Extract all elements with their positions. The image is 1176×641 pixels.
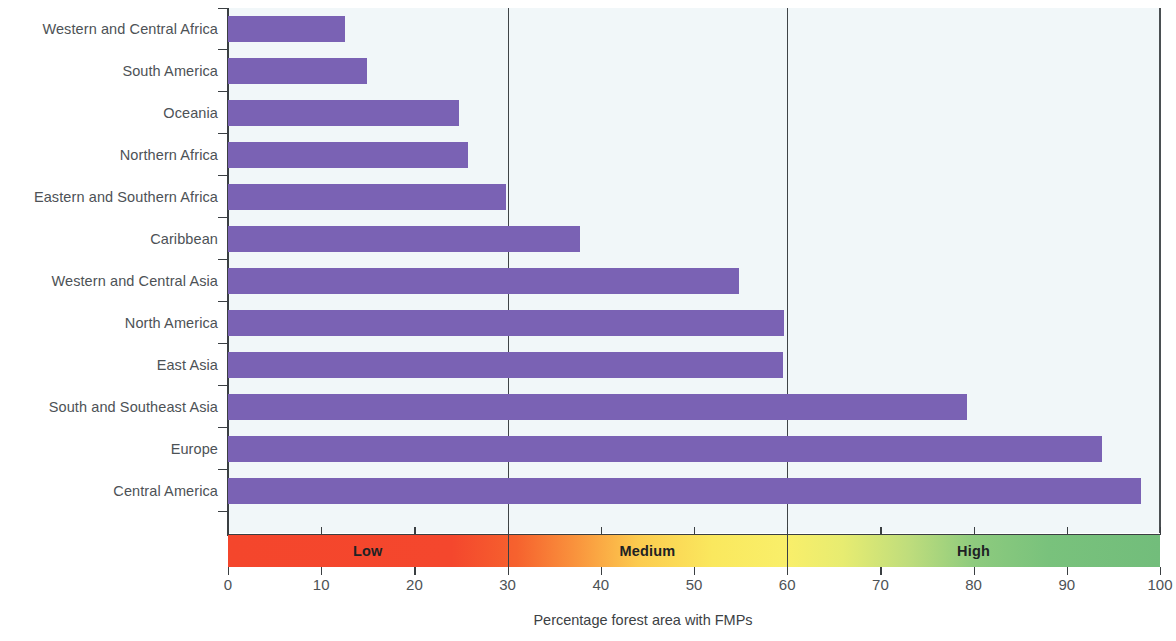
category-label: East Asia [0, 344, 218, 386]
x-tick-lower-30 [508, 567, 509, 575]
bar [228, 100, 459, 126]
bar-row: Western and Central Asia [0, 260, 1176, 302]
category-label: Europe [0, 428, 218, 470]
x-tick-lower-10 [321, 567, 322, 575]
y-axis-tick [218, 8, 227, 9]
band-zone-label-medium: Medium [508, 535, 788, 567]
x-tick-label-80: 80 [944, 576, 1004, 593]
category-label: Eastern and Southern Africa [0, 176, 218, 218]
category-label: Oceania [0, 92, 218, 134]
y-axis-tick [218, 511, 227, 512]
bar-row: Western and Central Africa [0, 8, 1176, 50]
x-tick-upper-100 [1160, 527, 1161, 535]
bar-row: Europe [0, 428, 1176, 470]
x-tick-label-60: 60 [757, 576, 817, 593]
x-tick-label-20: 20 [384, 576, 444, 593]
x-tick-upper-0 [228, 527, 229, 535]
x-tick-upper-10 [321, 527, 322, 535]
category-label: Northern Africa [0, 134, 218, 176]
x-tick-upper-60 [787, 527, 788, 535]
category-label: North America [0, 302, 218, 344]
x-tick-lower-70 [880, 567, 881, 575]
bar [228, 310, 784, 336]
band-zone-label-high: High [787, 535, 1160, 567]
x-tick-upper-50 [694, 527, 695, 535]
x-tick-lower-20 [414, 567, 415, 575]
x-tick-lower-60 [787, 567, 788, 575]
x-tick-lower-90 [1067, 567, 1068, 575]
x-tick-lower-0 [228, 567, 229, 575]
x-tick-label-100: 100 [1130, 576, 1176, 593]
bar-row: Eastern and Southern Africa [0, 176, 1176, 218]
bar-row: Caribbean [0, 218, 1176, 260]
bar [228, 436, 1102, 462]
bar [228, 226, 580, 252]
x-tick-upper-40 [601, 527, 602, 535]
bar-row: Northern Africa [0, 134, 1176, 176]
x-tick-label-0: 0 [198, 576, 258, 593]
bar-row: East Asia [0, 344, 1176, 386]
x-tick-label-70: 70 [850, 576, 910, 593]
category-label: South America [0, 50, 218, 92]
category-label: Central America [0, 470, 218, 512]
x-tick-upper-20 [414, 527, 415, 535]
x-tick-label-40: 40 [571, 576, 631, 593]
band-zone-label-low: Low [228, 535, 508, 567]
x-tick-label-50: 50 [664, 576, 724, 593]
x-tick-lower-50 [694, 567, 695, 575]
x-tick-lower-100 [1160, 567, 1161, 575]
bar [228, 352, 783, 378]
bar [228, 478, 1141, 504]
x-tick-upper-90 [1067, 527, 1068, 535]
bar [228, 16, 345, 42]
bar [228, 58, 367, 84]
category-label: Western and Central Africa [0, 8, 218, 50]
x-tick-upper-80 [974, 527, 975, 535]
x-tick-label-90: 90 [1037, 576, 1097, 593]
x-tick-label-10: 10 [291, 576, 351, 593]
bar-row: North America [0, 302, 1176, 344]
x-tick-label-30: 30 [478, 576, 538, 593]
category-label: Caribbean [0, 218, 218, 260]
x-tick-upper-30 [508, 527, 509, 535]
bar-row: South America [0, 50, 1176, 92]
category-label: Western and Central Asia [0, 260, 218, 302]
x-tick-lower-40 [601, 567, 602, 575]
band-separator-60 [787, 535, 788, 567]
bar [228, 142, 468, 168]
x-tick-upper-70 [880, 527, 881, 535]
bar [228, 268, 739, 294]
bar-chart-figure: Western and Central AfricaSouth AmericaO… [0, 0, 1176, 641]
bar [228, 184, 506, 210]
bar-row: Oceania [0, 92, 1176, 134]
x-tick-lower-80 [974, 567, 975, 575]
category-label: South and Southeast Asia [0, 386, 218, 428]
bar-row: Central America [0, 470, 1176, 512]
bar-row: South and Southeast Asia [0, 386, 1176, 428]
bar [228, 394, 967, 420]
band-separator-30 [508, 535, 509, 567]
x-axis-title: Percentage forest area with FMPs [0, 612, 1176, 628]
